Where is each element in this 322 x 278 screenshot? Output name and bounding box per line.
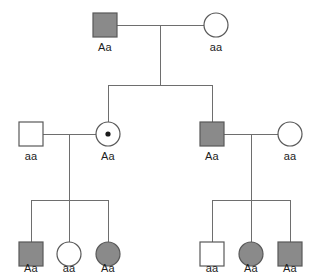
pedigree-chart: Aa aa aa Aa Aa aa Aa aa Aa aa Aa Aa	[0, 0, 322, 278]
genotype-label-ii4: aa	[284, 150, 297, 162]
individual-i1-square[interactable]	[93, 13, 117, 37]
individual-ii4-circle[interactable]	[278, 122, 302, 146]
generation-1-group	[93, 13, 228, 122]
genotype-label-iii4: aa	[206, 262, 219, 274]
genotype-label-ii1: aa	[25, 150, 38, 162]
individual-ii3-square[interactable]	[200, 122, 224, 146]
genotype-label-iii5: Aa	[244, 262, 258, 274]
carrier-dot-icon	[105, 131, 110, 136]
genotype-label-iii6: Aa	[283, 262, 297, 274]
genotype-label-iii2: aa	[63, 262, 76, 274]
pedigree-diagram-canvas	[0, 0, 322, 278]
genotype-label-i1: Aa	[98, 41, 112, 53]
generation-2-group	[19, 122, 302, 242]
individual-ii1-square[interactable]	[19, 122, 43, 146]
genotype-label-iii1: Aa	[24, 262, 38, 274]
genotype-label-i2: aa	[210, 41, 223, 53]
genotype-label-ii2: Aa	[101, 150, 115, 162]
genotype-label-iii3: Aa	[101, 262, 115, 274]
generation-3-group	[19, 242, 302, 266]
individual-i2-circle[interactable]	[204, 13, 228, 37]
genotype-label-ii3: Aa	[205, 150, 219, 162]
